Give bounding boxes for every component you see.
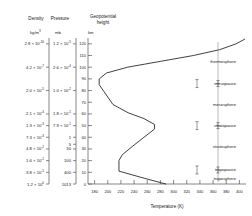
temperature-tick-label: 360 bbox=[210, 189, 217, 194]
density-value: 1.2 × 100 bbox=[27, 181, 44, 187]
density-value: 4.8 × 10-2 bbox=[26, 145, 44, 151]
temperature-tick-label: 220 bbox=[118, 189, 125, 194]
temperature-tick-label: 300 bbox=[170, 189, 177, 194]
height-tick-label: 0 bbox=[84, 182, 87, 187]
pressure-value: 1.8 × 10-1 bbox=[53, 110, 71, 116]
layer-label-troposphere: troposphere bbox=[214, 176, 237, 181]
temperature-tick-list: 180200220240260280300320340360380400 bbox=[91, 180, 243, 194]
temperature-tick-label: 340 bbox=[197, 189, 204, 194]
pressure-value: 2.6 × 10-4 bbox=[53, 64, 71, 70]
density-value: 1.3 × 10-3 bbox=[26, 122, 44, 128]
pressure-value: 100 bbox=[64, 158, 72, 163]
height-tick-label: 30 bbox=[82, 146, 87, 151]
temperature-tick-label: 200 bbox=[104, 189, 111, 194]
temperature-tick-label: 240 bbox=[131, 189, 138, 194]
layer-label-mesosphere: mesosphere bbox=[213, 102, 237, 107]
pressure-column-header: Pressure bbox=[51, 16, 70, 21]
density-value: 2.1 × 10-4 bbox=[26, 110, 44, 116]
x-axis-title: Temperature (K) bbox=[150, 204, 184, 209]
pressure-value: 1013 bbox=[62, 182, 72, 187]
pressure-value: 1.0 × 10-2 bbox=[53, 87, 71, 93]
height-tick-label: 10 bbox=[82, 170, 87, 175]
density-unit-label: kg/m3 bbox=[30, 29, 41, 35]
atmospheric-layer-annotations: thermospheremesopausemesospherestratopau… bbox=[195, 42, 236, 182]
height-tick-label: 110 bbox=[80, 53, 87, 58]
temperature-tick-label: 280 bbox=[157, 189, 164, 194]
density-value-list: 2.8 × 10-104.2 × 10-72.0 × 10-52.1 × 10-… bbox=[24, 40, 49, 186]
pressure-value-list: 1.2 × 10-52.6 × 10-41.0 × 10-21.8 × 10-1… bbox=[53, 40, 76, 186]
pressure-value: 1 bbox=[69, 135, 72, 140]
height-tick-label: 100 bbox=[79, 65, 86, 70]
height-column-header-line1: Geopotential bbox=[90, 14, 116, 19]
height-tick-label: 50 bbox=[82, 123, 87, 128]
pressure-unit-label: mb bbox=[55, 30, 61, 35]
temperature-tick-label: 180 bbox=[91, 189, 98, 194]
density-value: 7.3 × 10-3 bbox=[26, 134, 44, 140]
pressure-value: 30 bbox=[66, 146, 71, 151]
temperature-tick-label: 400 bbox=[236, 189, 243, 194]
density-column-header: Density bbox=[28, 16, 44, 21]
temperature-tick-label: 260 bbox=[144, 189, 151, 194]
density-value: 2.8 × 10-10 bbox=[24, 40, 44, 46]
height-tick-label: 120 bbox=[79, 41, 86, 46]
temperature-tick-label: 380 bbox=[223, 189, 230, 194]
height-column-header-line2: height bbox=[97, 20, 110, 25]
height-unit-label: km bbox=[88, 30, 94, 35]
height-tick-label: 40 bbox=[82, 135, 87, 140]
density-value: 1.6 × 10-1 bbox=[26, 157, 44, 163]
layer-label-thermosphere: thermosphere bbox=[210, 59, 237, 64]
temperature-tick-label: 320 bbox=[183, 189, 190, 194]
atmosphere-temperature-profile-figure: Density Pressure Geopotential height kg/… bbox=[0, 0, 252, 216]
height-tick-label: 70 bbox=[82, 100, 87, 105]
density-value: 3.8 × 10-1 bbox=[26, 169, 44, 175]
height-tick-list: 0102030405060708090100110120 bbox=[79, 41, 92, 186]
pressure-value: 400 bbox=[64, 170, 72, 175]
height-tick-label: 90 bbox=[82, 76, 87, 81]
pressure-value: 1.2 × 10-5 bbox=[53, 40, 71, 46]
height-tick-label: 80 bbox=[82, 88, 87, 93]
layer-label-stratosphere: stratosphere bbox=[213, 144, 237, 149]
chart-svg: Density Pressure Geopotential height kg/… bbox=[0, 0, 252, 216]
height-tick-label: 20 bbox=[82, 158, 87, 163]
density-value: 4.2 × 10-7 bbox=[26, 64, 44, 70]
height-tick-label: 60 bbox=[82, 111, 87, 116]
density-value: 2.0 × 10-5 bbox=[26, 87, 44, 93]
pressure-value: 7.9 × 10-1 bbox=[53, 122, 71, 128]
